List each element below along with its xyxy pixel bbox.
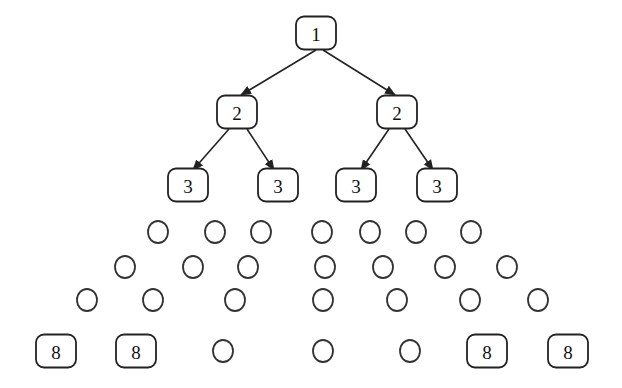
edge-arrow: [405, 129, 433, 170]
node-label: 3: [273, 176, 283, 197]
nodes: 12233338888: [36, 17, 588, 368]
tree-node-circle: [148, 221, 168, 243]
tree-node-box-3: 3: [336, 169, 376, 202]
tree-node-box-8: 8: [467, 335, 507, 368]
tree-node-box-2: 2: [217, 96, 257, 129]
tree-node-circle: [143, 289, 163, 311]
tree-node-circle: [461, 221, 481, 243]
tree-node-circle: [115, 256, 135, 278]
tree-node-box-3: 3: [417, 169, 457, 202]
tree-node-box-1: 1: [296, 17, 336, 50]
tree-node-box-8: 8: [36, 335, 76, 368]
tree-node-circle: [373, 256, 393, 278]
node-label: 2: [232, 103, 242, 124]
tree-node-circle: [183, 256, 203, 278]
node-label: 3: [183, 176, 193, 197]
tree-node-box-8: 8: [116, 335, 156, 368]
tree-node-circle: [225, 289, 245, 311]
tree-node-circle: [360, 221, 380, 243]
node-label: 3: [432, 176, 442, 197]
edge-arrow: [247, 129, 274, 170]
edge-arrow: [241, 50, 316, 95]
tree-node-circle: [251, 221, 271, 243]
node-label: 3: [351, 176, 361, 197]
node-label: 8: [51, 342, 61, 363]
edge-arrow: [193, 129, 229, 170]
edge-arrow: [361, 129, 389, 170]
tree-node-circle: [460, 289, 480, 311]
tree-node-box-2: 2: [377, 96, 417, 129]
tree-node-circle: [238, 256, 258, 278]
tree-node-circle: [387, 289, 407, 311]
tree-node-circle: [497, 256, 517, 278]
tree-node-circle: [313, 289, 333, 311]
tree-node-box-3: 3: [258, 169, 298, 202]
tree-node-box-8: 8: [548, 335, 588, 368]
tree-node-circle: [77, 289, 97, 311]
tree-node-circle: [435, 256, 455, 278]
node-label: 8: [482, 342, 492, 363]
tree-node-circle: [313, 340, 333, 362]
tree-node-circle: [406, 221, 426, 243]
tree-node-circle: [400, 340, 420, 362]
node-label: 2: [392, 103, 402, 124]
node-label: 8: [131, 342, 141, 363]
node-label: 8: [563, 342, 573, 363]
tree-node-box-3: 3: [168, 169, 208, 202]
tree-node-circle: [312, 221, 332, 243]
tree-node-circle: [528, 289, 548, 311]
tree-node-circle: [205, 221, 225, 243]
edge-arrow: [323, 50, 395, 95]
node-label: 1: [311, 24, 321, 45]
tree-node-circle: [315, 256, 335, 278]
tree-node-circle: [213, 340, 233, 362]
tree-diagram: 12233338888: [0, 0, 622, 388]
